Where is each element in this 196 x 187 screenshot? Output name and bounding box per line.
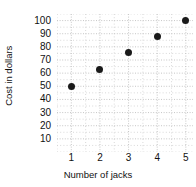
- scatter-chart: Cost in dollars 102030405060708090100 12…: [0, 0, 196, 187]
- y-tick-label: 100: [34, 16, 51, 26]
- x-axis-tick-labels: 12345: [57, 153, 193, 169]
- data-point: [68, 83, 75, 90]
- y-tick-label: 50: [40, 81, 51, 91]
- data-point: [96, 66, 103, 73]
- y-tick-label: 90: [40, 29, 51, 39]
- x-tick-label: 5: [183, 153, 189, 163]
- x-tick-label: 1: [69, 153, 75, 163]
- y-tick-label: 10: [40, 134, 51, 144]
- y-tick-label: 30: [40, 108, 51, 118]
- y-axis-tick-labels: 102030405060708090100: [16, 0, 54, 160]
- y-tick-label: 70: [40, 55, 51, 65]
- plot-area: [57, 14, 193, 152]
- y-axis-title-text: Cost in dollars: [4, 46, 14, 106]
- data-point: [182, 17, 189, 24]
- x-tick-label: 3: [126, 153, 132, 163]
- y-tick-label: 40: [40, 94, 51, 104]
- x-tick-label: 2: [97, 153, 103, 163]
- data-point: [125, 49, 132, 56]
- x-axis-title: Number of jacks: [0, 170, 196, 180]
- data-point: [154, 33, 161, 40]
- y-tick-label: 80: [40, 42, 51, 52]
- y-tick-label: 20: [40, 121, 51, 131]
- x-tick-label: 4: [154, 153, 160, 163]
- y-tick-label: 60: [40, 68, 51, 78]
- data-points-layer: [57, 14, 193, 152]
